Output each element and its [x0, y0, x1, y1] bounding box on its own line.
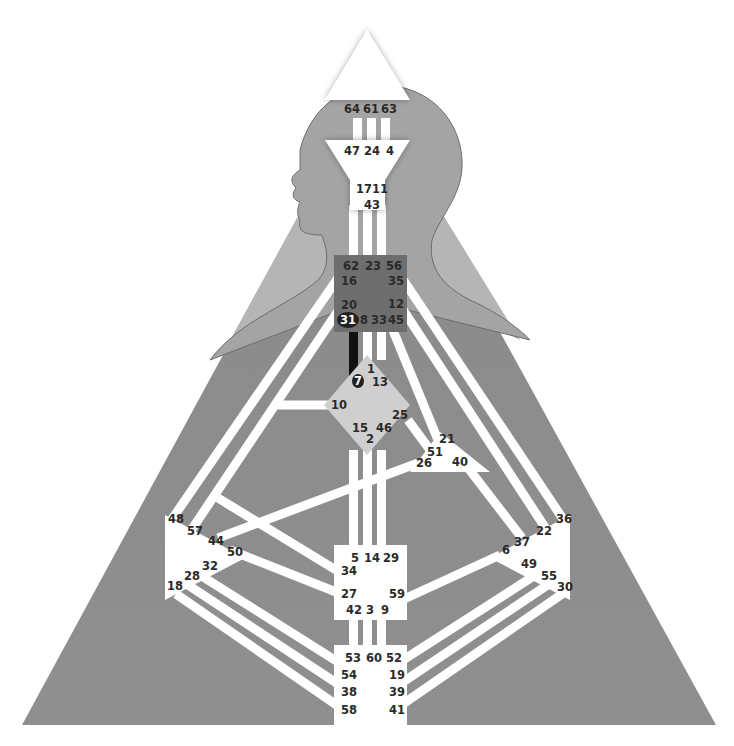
gate-52: 52	[386, 651, 402, 665]
gate-59: 59	[389, 587, 405, 601]
gate-55: 55	[541, 569, 557, 583]
gate-41: 41	[389, 703, 405, 717]
gate-30: 30	[557, 580, 573, 594]
gate-35: 35	[388, 274, 404, 288]
gate-63: 63	[381, 102, 397, 116]
gate-23: 23	[365, 259, 381, 273]
gate-40: 40	[452, 455, 468, 469]
gate-56: 56	[386, 259, 402, 273]
gate-64: 64	[344, 102, 360, 116]
gate-53: 53	[345, 651, 361, 665]
gate-7: 7	[354, 374, 362, 388]
gate-3: 3	[366, 603, 374, 617]
gate-13: 13	[372, 375, 388, 389]
gate-58: 58	[341, 703, 357, 717]
gate-26: 26	[416, 456, 432, 470]
gate-33: 33	[371, 313, 387, 327]
gate-42: 42	[346, 603, 362, 617]
gate-5: 5	[351, 551, 359, 565]
gate-10: 10	[331, 398, 347, 412]
gate-20: 20	[341, 298, 357, 312]
gate-12: 12	[388, 297, 404, 311]
gate-28: 28	[184, 569, 200, 583]
gate-4: 4	[386, 144, 394, 158]
gate-45: 45	[388, 313, 404, 327]
gate-47: 47	[344, 144, 360, 158]
gate-50: 50	[227, 545, 243, 559]
gate-39: 39	[389, 685, 405, 699]
gate-2: 2	[366, 432, 374, 446]
gate-25: 25	[392, 408, 408, 422]
gate-38: 38	[341, 685, 357, 699]
gate-11: 11	[372, 182, 388, 196]
gate-34: 34	[341, 564, 357, 578]
gate-46: 46	[376, 421, 392, 435]
gate-57: 57	[187, 524, 203, 538]
gate-14: 14	[364, 551, 380, 565]
gate-1: 1	[367, 362, 375, 376]
gate-31: 31	[340, 313, 356, 327]
gate-36: 36	[556, 512, 572, 526]
head-center	[325, 30, 410, 100]
gate-60: 60	[366, 651, 382, 665]
gate-22: 22	[536, 524, 552, 538]
gate-62: 62	[343, 259, 359, 273]
gate-9: 9	[381, 603, 389, 617]
bodygraph-diagram: 64 61 63 47 24 4 17 11 43 62 23 56 16 35…	[0, 0, 734, 746]
gate-44: 44	[208, 534, 224, 548]
gate-43: 43	[364, 198, 380, 212]
gate-8: 8	[360, 313, 368, 327]
gate-27: 27	[341, 587, 357, 601]
gate-61: 61	[363, 102, 379, 116]
gate-32: 32	[202, 559, 218, 573]
gate-17: 17	[356, 182, 372, 196]
gate-29: 29	[383, 551, 399, 565]
gate-21: 21	[439, 432, 455, 446]
gate-48: 48	[168, 512, 184, 526]
gate-18: 18	[167, 579, 183, 593]
gate-6: 6	[502, 543, 510, 557]
gate-54: 54	[341, 668, 357, 682]
gate-49: 49	[521, 557, 537, 571]
gate-16: 16	[341, 274, 357, 288]
gate-24: 24	[364, 144, 380, 158]
gate-37: 37	[514, 535, 530, 549]
gate-19: 19	[389, 668, 405, 682]
